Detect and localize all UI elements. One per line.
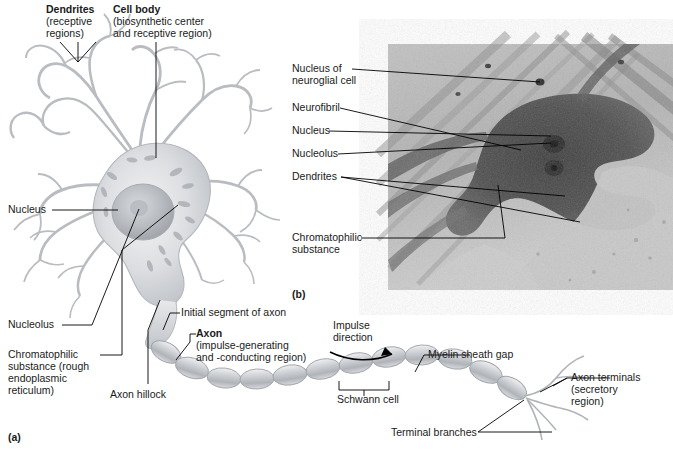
label-cell-body-detail-1: (biosynthetic center bbox=[113, 16, 204, 28]
label-axon-title: Axon bbox=[196, 328, 222, 340]
label-chromatophilic-substance-3: endoplasmic bbox=[8, 373, 67, 385]
panel-label-b: (b) bbox=[292, 288, 305, 300]
label-chromatophilic-substance-2: substance (rough bbox=[8, 361, 89, 373]
label-terminal-branches: Terminal branches bbox=[391, 427, 477, 439]
label-axon-terminals-1: Axon terminals bbox=[571, 372, 640, 384]
label-cell-body-detail-2: and receptive region) bbox=[113, 28, 212, 40]
label-schwann-cell: Schwann cell bbox=[337, 394, 399, 406]
label-nucleus: Nucleus bbox=[8, 204, 46, 216]
label-axon-terminals-2: (secretory bbox=[571, 384, 618, 396]
label-initial-segment-of-axon: Initial segment of axon bbox=[181, 307, 286, 319]
label-dendrites-detail-1: (receptive bbox=[46, 16, 92, 28]
label-nucleolus: Nucleolus bbox=[8, 319, 54, 331]
label-dendrites-detail-2: regions) bbox=[46, 28, 84, 40]
neuron-structure-figure: Nucleus of neuroglial cell Neurofibril N… bbox=[0, 0, 673, 457]
label-dendrites-title: Dendrites bbox=[46, 4, 94, 16]
panel-label-a: (a) bbox=[8, 431, 21, 443]
label-impulse-direction-1: Impulse bbox=[333, 320, 370, 332]
label-axon-detail-1: (impulse-generating bbox=[196, 340, 289, 352]
label-axon-detail-2: and -conducting region) bbox=[196, 352, 306, 364]
label-chromatophilic-substance-1: Chromatophilic bbox=[8, 349, 78, 361]
label-myelin-sheath-gap: Myelin sheath gap bbox=[428, 349, 513, 361]
label-axon-hillock: Axon hillock bbox=[110, 389, 166, 401]
label-cell-body-title: Cell body bbox=[113, 4, 160, 16]
label-axon-terminals-3: region) bbox=[571, 396, 604, 408]
label-impulse-direction-2: direction bbox=[333, 332, 373, 344]
label-chromatophilic-substance-4: reticulum) bbox=[8, 385, 54, 397]
